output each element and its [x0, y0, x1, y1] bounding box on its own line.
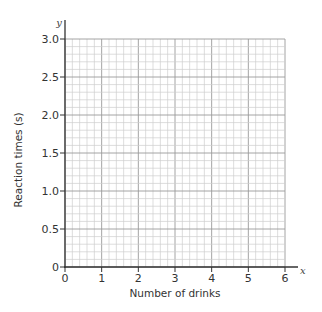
y-tick-label: 2.5 — [42, 71, 60, 84]
x-tick-label: 6 — [282, 272, 289, 285]
y-tick-label: 0 — [52, 261, 59, 274]
x-tick-label: 5 — [245, 272, 252, 285]
y-tick-label: 1.0 — [42, 185, 60, 198]
grid — [65, 39, 285, 267]
x-variable-label: x — [300, 265, 306, 276]
y-axis-title: Reaction times (s) — [12, 112, 24, 207]
x-tick-label: 3 — [172, 272, 179, 285]
y-tick-label: 2.0 — [42, 109, 60, 122]
y-tick-label: 1.5 — [42, 147, 60, 160]
y-tick-label: 0.5 — [42, 223, 60, 236]
graph-paper-chart: 0123456 00.51.01.52.02.53.0 y x Number o… — [0, 0, 322, 312]
y-variable-label: y — [55, 17, 62, 28]
x-tick-label: 0 — [62, 272, 69, 285]
x-tick-label: 1 — [98, 272, 105, 285]
y-tick-label: 3.0 — [42, 33, 60, 46]
x-tick-labels: 0123456 — [62, 272, 289, 285]
axes — [60, 20, 298, 272]
y-tick-labels: 00.51.01.52.02.53.0 — [42, 33, 60, 274]
x-tick-label: 2 — [135, 272, 142, 285]
x-axis-title: Number of drinks — [129, 287, 220, 299]
x-tick-label: 4 — [208, 272, 215, 285]
